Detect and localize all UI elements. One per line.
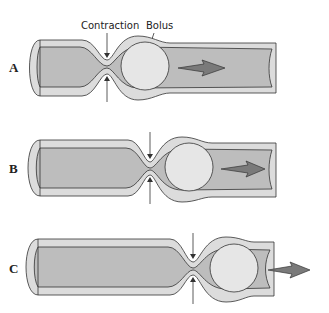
peristalsis-diagram: Contraction Bolus A B C [0, 0, 329, 313]
contraction-arrow-down-icon [190, 254, 196, 259]
bolus-label: Bolus [146, 20, 173, 31]
bolus [165, 143, 213, 191]
contraction-arrow-up-icon [147, 177, 153, 182]
panel-a-label: A [9, 60, 19, 75]
panel-c-label: C [9, 261, 18, 276]
panel-b: B [9, 132, 276, 204]
panel-a: A [9, 33, 276, 102]
contraction-arrow-up-icon [104, 76, 110, 81]
contraction-label: Contraction [81, 20, 139, 31]
contraction-arrow-down-icon [104, 53, 110, 58]
panel-b-label: B [9, 161, 18, 176]
panel-c: C [9, 233, 310, 304]
bolus [121, 42, 169, 90]
contraction-arrow-down-icon [147, 154, 153, 159]
contraction-arrow-up-icon [190, 277, 196, 282]
bolus [210, 244, 258, 292]
